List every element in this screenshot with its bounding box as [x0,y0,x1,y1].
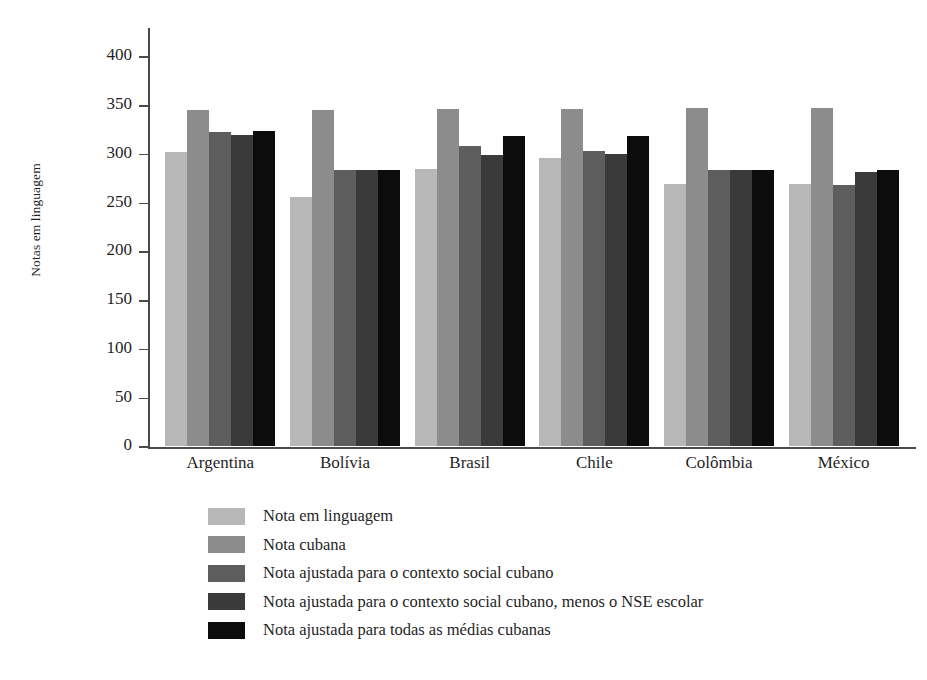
bar-group-argentina [165,55,275,446]
y-tick-label: 200 [107,240,133,260]
x-axis-spine [148,447,916,449]
bar [253,131,275,446]
legend-label: Nota em linguagem [263,506,393,526]
y-tick-0: 0 [139,446,149,448]
legend-item: Nota ajustada para todas as médias cuban… [208,616,848,645]
legend-label: Nota ajustada para todas as médias cuban… [263,620,551,640]
y-tick-50: 50 [139,398,149,400]
bar [334,170,356,446]
bar [789,184,811,446]
bar-group-brasil [415,55,525,446]
x-axis-label-méxico: México [749,453,927,473]
legend-label: Nota cubana [263,535,346,555]
bar [752,170,774,447]
bar [503,136,525,446]
bar-chart-figure: Notas em linguagem 050100150200250300350… [0,0,927,680]
bar [877,170,899,447]
y-tick-100: 100 [139,349,149,351]
y-tick-250: 250 [139,203,149,205]
y-tick-350: 350 [139,105,149,107]
bar-group-méxico [789,55,899,446]
bar [855,172,877,446]
bar-group-colômbia [664,55,774,446]
bar [811,108,833,446]
bar [730,170,752,447]
legend-label: Nota ajustada para o contexto social cub… [263,592,703,612]
bar [686,108,708,446]
bar [187,110,209,446]
legend-swatch [208,536,245,553]
y-axis-title: Notas em linguagem [28,120,44,320]
y-tick-400: 400 [139,56,149,58]
legend-label: Nota ajustada para o contexto social cub… [263,563,553,583]
y-tick-label: 150 [107,289,133,309]
legend-swatch [208,593,245,610]
bar [561,109,583,446]
legend-swatch [208,565,245,582]
y-tick-150: 150 [139,300,149,302]
bar-group-chile [539,55,649,446]
y-axis-spine [148,28,150,448]
bar [627,136,649,446]
legend-swatch [208,508,245,525]
bar [833,185,855,446]
bar [459,146,481,446]
chart-legend: Nota em linguagemNota cubanaNota ajustad… [208,502,848,645]
bar [664,184,686,446]
bar [437,109,459,446]
bar [481,155,503,447]
legend-item: Nota cubana [208,531,848,560]
y-tick-label: 400 [107,45,133,65]
y-tick-200: 200 [139,251,149,253]
bar [165,152,187,446]
legend-item: Nota ajustada para o contexto social cub… [208,559,848,588]
y-tick-label: 300 [107,143,133,163]
bar [539,158,561,447]
y-tick-label: 100 [107,338,133,358]
plot-area: 050100150200250300350400 ArgentinaBolívi… [148,28,916,448]
bar-group-bolívia [290,55,400,446]
bar [209,132,231,446]
y-tick-label: 250 [107,192,133,212]
bar [312,110,334,446]
bar [605,154,627,447]
y-tick-300: 300 [139,154,149,156]
bar [290,197,312,447]
legend-swatch [208,622,245,639]
bar [378,170,400,446]
bar [583,151,605,446]
bar [356,170,378,446]
legend-item: Nota ajustada para o contexto social cub… [208,588,848,617]
y-tick-label: 50 [115,387,132,407]
legend-item: Nota em linguagem [208,502,848,531]
bar [708,170,730,447]
y-tick-label: 350 [107,94,133,114]
bar [231,135,253,446]
bar [415,169,437,447]
